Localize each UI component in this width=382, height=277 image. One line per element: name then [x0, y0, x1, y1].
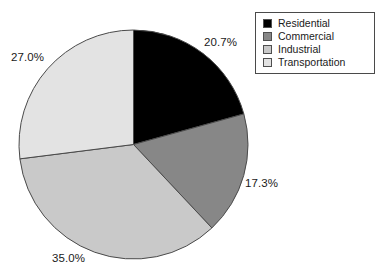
chart-legend: Residential Commercial Industrial Transp…	[255, 12, 375, 74]
pie-slice-group	[19, 30, 248, 259]
legend-swatch-commercial	[263, 32, 272, 41]
legend-label-residential: Residential	[278, 18, 330, 29]
legend-label-transportation: Transportation	[278, 57, 345, 68]
pie-chart-figure: 20.7% 17.3% 35.0% 27.0% Residential Comm…	[0, 0, 382, 277]
legend-swatch-transportation	[263, 58, 272, 67]
legend-swatch-industrial	[263, 45, 272, 54]
slice-label-residential: 20.7%	[204, 36, 237, 48]
legend-label-commercial: Commercial	[278, 31, 334, 42]
legend-item-residential[interactable]: Residential	[263, 18, 368, 29]
legend-item-commercial[interactable]: Commercial	[263, 31, 368, 42]
legend-label-industrial: Industrial	[278, 44, 321, 55]
slice-label-transportation: 27.0%	[11, 51, 44, 63]
pie-slice-transportation[interactable]	[19, 30, 134, 159]
slice-label-commercial: 17.3%	[245, 177, 278, 189]
legend-item-industrial[interactable]: Industrial	[263, 44, 368, 55]
slice-label-industrial: 35.0%	[52, 252, 85, 264]
legend-item-transportation[interactable]: Transportation	[263, 57, 368, 68]
legend-swatch-residential	[263, 19, 272, 28]
